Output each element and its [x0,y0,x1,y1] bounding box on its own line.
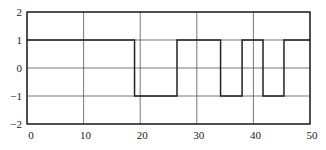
x-tick-label: 20 [137,129,149,141]
x-axis-tick-labels: 01020304050 [28,129,318,141]
step-chart: 210−1−2 01020304050 [0,0,326,150]
y-tick-label: −2 [10,118,22,130]
x-tick-label: 50 [307,129,319,141]
y-axis-tick-labels: 210−1−2 [10,6,22,130]
y-tick-label: −1 [10,90,22,102]
y-tick-label: 1 [17,34,23,46]
y-tick-label: 2 [17,6,23,18]
x-tick-label: 10 [80,129,92,141]
x-tick-label: 30 [193,129,205,141]
x-tick-label: 40 [250,129,262,141]
grid-lines [27,12,310,124]
x-tick-label: 0 [28,129,34,141]
y-tick-label: 0 [17,62,23,74]
